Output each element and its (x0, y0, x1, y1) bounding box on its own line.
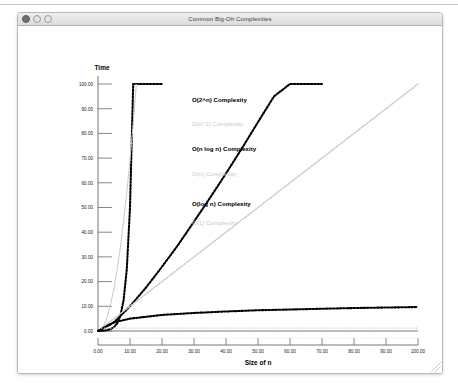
y-tick-label: 30.00 (82, 255, 94, 260)
x-tick-label: 80.00 (348, 349, 360, 354)
x-tick-label: 20.00 (156, 349, 168, 354)
y-tick-label: 50.00 (82, 205, 94, 210)
x-tick-label: 50.00 (252, 349, 264, 354)
x-axis-title: Size of n (245, 359, 272, 366)
y-tick-label: 80.00 (82, 131, 94, 136)
y-tick-label: 100.00 (79, 82, 93, 87)
y-tick-label: 90.00 (82, 107, 94, 112)
y-tick-label: 20.00 (82, 279, 94, 284)
y-tick-label: 10.00 (82, 304, 94, 309)
window-titlebar[interactable]: Common Big-Oh Complexities (18, 13, 442, 26)
resize-grip[interactable] (429, 360, 441, 372)
series-o-log-n-complexity (98, 307, 418, 331)
chart-canvas: 0.0010.0020.0030.0040.0050.0060.0070.008… (18, 26, 442, 373)
x-tick-label: 0.00 (94, 349, 103, 354)
x-tick-label: 10.00 (124, 349, 136, 354)
y-axis-title: Time (94, 64, 109, 71)
annotation-o-n-complexity: O(n) Complexity (192, 170, 238, 177)
x-tick-label: 30.00 (188, 349, 200, 354)
page-top-rule (0, 4, 458, 5)
app-window: Common Big-Oh Complexities 0.0010.0020.0… (17, 12, 443, 374)
y-tick-label: 40.00 (82, 230, 94, 235)
annotation-o-1-complexity: O(1) Complexity (192, 219, 238, 226)
x-tick-label: 40.00 (220, 349, 232, 354)
window-content: 0.0010.0020.0030.0040.0050.0060.0070.008… (18, 26, 442, 373)
annotation-o-n-log-n-complexity: O(n log n) Complexity (192, 145, 257, 152)
x-tick-label: 90.00 (380, 349, 392, 354)
big-oh-chart: 0.0010.0020.0030.0040.0050.0060.0070.008… (18, 26, 442, 373)
annotation-o-2-n-complexity: O(2^n) Complexity (192, 96, 247, 103)
y-tick-label: 60.00 (82, 181, 94, 186)
annotation-o-n-2-complexity: O(n^2) Complexity (192, 120, 244, 127)
x-tick-label: 70.00 (316, 349, 328, 354)
window-title: Common Big-Oh Complexities (18, 13, 442, 25)
annotation-o-log-n-complexity: O(log n) Complexity (192, 200, 251, 207)
y-tick-label: 70.00 (82, 156, 94, 161)
x-tick-label: 60.00 (284, 349, 296, 354)
x-tick-label: 100.00 (411, 349, 425, 354)
y-tick-label: 0.00 (84, 329, 93, 334)
